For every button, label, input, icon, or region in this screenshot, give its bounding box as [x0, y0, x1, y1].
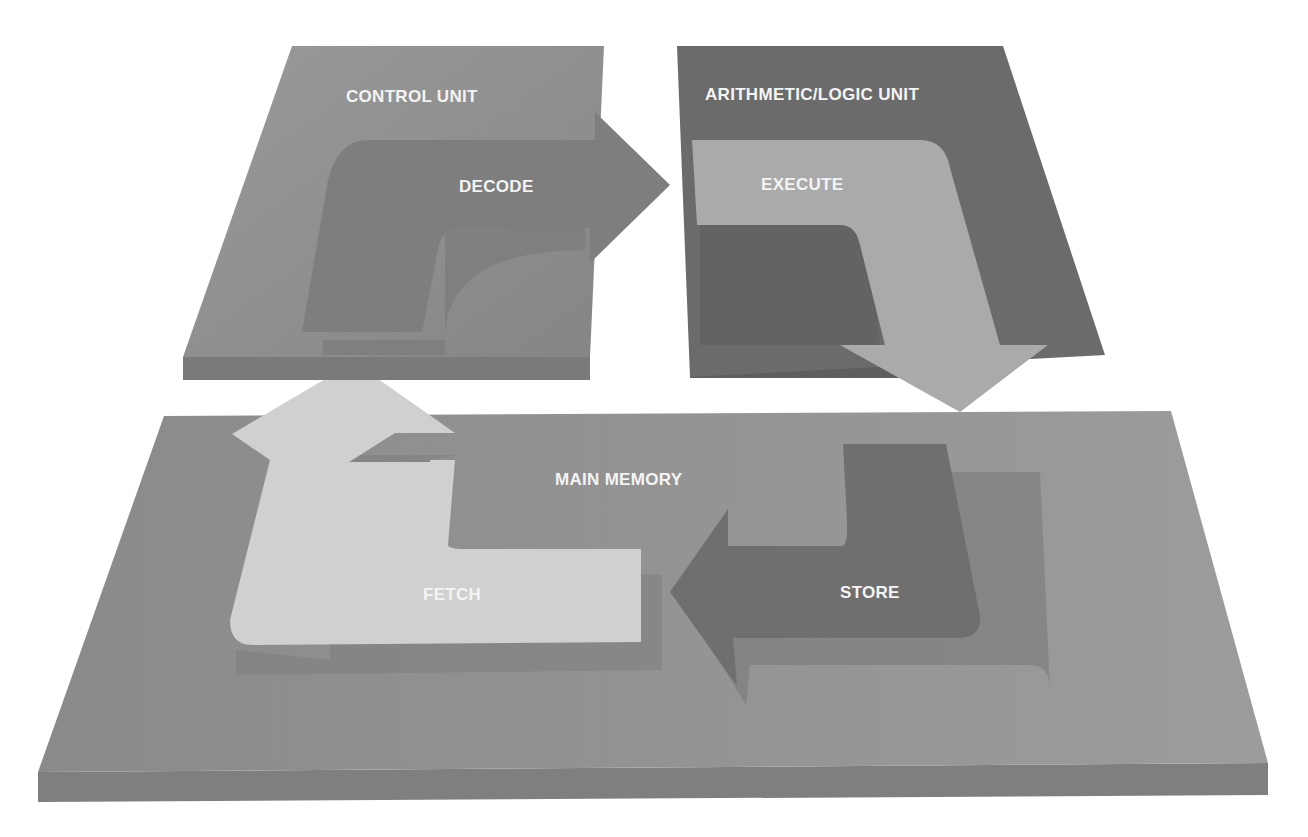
- store-label: STORE: [840, 583, 900, 602]
- alu-label: ARITHMETIC/LOGIC UNIT: [705, 85, 919, 104]
- control-unit-label: CONTROL UNIT: [346, 87, 478, 106]
- main-memory-label: MAIN MEMORY: [555, 470, 683, 489]
- decode-label: DECODE: [459, 177, 534, 196]
- instruction-cycle-diagram: CONTROL UNIT ARITHMETIC/LOGIC UNIT DECOD…: [0, 0, 1308, 837]
- fetch-label: FETCH: [423, 585, 481, 604]
- execute-label: EXECUTE: [761, 175, 843, 194]
